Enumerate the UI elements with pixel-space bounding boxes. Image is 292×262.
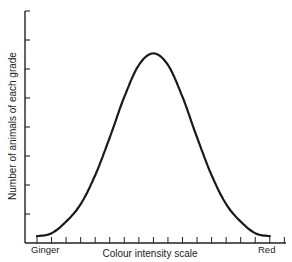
x-axis-end-label: Red: [258, 244, 275, 255]
y-axis-label: Number of animals of each grade: [7, 52, 18, 200]
axes: [25, 11, 286, 243]
x-axis-start-label: Ginger: [31, 244, 60, 255]
distribution-curve: [37, 53, 270, 236]
plot-area: [0, 0, 292, 262]
x-axis-label: Colour intensity scale: [102, 248, 197, 259]
